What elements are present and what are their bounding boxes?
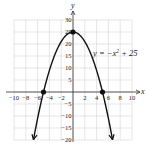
x-tick-label: −6 (34, 94, 42, 101)
y-tick-label: −5 (65, 100, 72, 107)
y-tick-label: 20 (65, 40, 72, 47)
x-tick-label: 6 (107, 94, 111, 101)
y-tick-label: 30 (65, 16, 72, 23)
x-tick-label: 2 (83, 94, 86, 101)
key-point-dot (41, 89, 46, 94)
x-axis-label: x (140, 87, 145, 96)
y-axis-label: y (70, 1, 75, 10)
x-tick-label: −10 (9, 94, 19, 101)
y-tick-label: 15 (65, 52, 72, 59)
y-tick-label: 10 (65, 64, 72, 71)
parabola-chart: −10−8−6−4−2246810−20−15−10−551015202530 … (0, 0, 147, 147)
x-tick-label: −4 (46, 94, 54, 101)
y-tick-label: −15 (61, 124, 71, 131)
x-tick-label: 10 (129, 94, 136, 101)
y-tick-label: 5 (68, 76, 71, 83)
x-tick-label: −8 (22, 94, 29, 101)
x-tick-label: 8 (119, 94, 122, 101)
x-tick-label: 4 (95, 94, 99, 101)
y-tick-label: −20 (61, 136, 71, 143)
key-point-dot (70, 29, 75, 34)
equation-label: y = −x2 + 25 (92, 48, 138, 58)
key-point-dot (100, 89, 105, 94)
y-tick-label: −10 (61, 112, 71, 119)
